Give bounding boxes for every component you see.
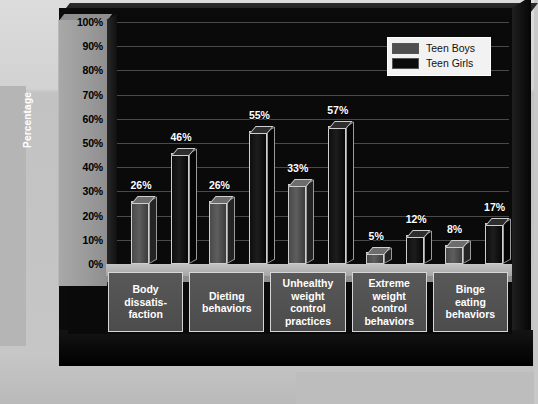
- bar-side: [149, 196, 157, 264]
- bar-face: [249, 131, 267, 264]
- bar-teen-girls: [485, 223, 503, 264]
- bar-group: 33%57%: [274, 22, 352, 264]
- bar-teen-boys: [366, 252, 384, 264]
- y-axis-tick-label: 90%: [59, 41, 103, 51]
- category-label-row: Body dissatis- factionDieting behaviorsU…: [106, 272, 512, 334]
- legend-item: Teen Boys: [392, 41, 486, 56]
- y-axis-tick-label: 70%: [59, 90, 103, 100]
- bar-face: [328, 126, 346, 264]
- chart-frame-base: [59, 330, 533, 366]
- category-label: Binge eating behaviors: [433, 272, 508, 332]
- category-label: Unhealthy weight control practices: [270, 272, 345, 332]
- category-label: Body dissatis- faction: [108, 272, 183, 332]
- bar-group: 26%46%: [117, 22, 195, 264]
- bar-face: [209, 201, 227, 264]
- legend-swatch: [392, 43, 419, 54]
- legend-label: Teen Girls: [426, 58, 473, 69]
- category-label: Dieting behaviors: [189, 272, 264, 332]
- category-label: Extreme weight control behaviors: [352, 272, 427, 332]
- bar-teen-boys: [209, 201, 227, 264]
- bar-face: [131, 201, 149, 264]
- y-axis-tick-label: 20%: [59, 211, 103, 221]
- y-axis-column-side: [106, 14, 117, 286]
- bar-teen-girls: [249, 131, 267, 264]
- bar-value-label: 33%: [277, 162, 319, 174]
- bar-value-label: 26%: [198, 179, 240, 191]
- legend-swatch: [392, 58, 419, 69]
- bar-teen-boys: [445, 245, 463, 264]
- bar-value-label: 26%: [120, 179, 162, 191]
- bar-value-label: 17%: [474, 201, 516, 213]
- bar-teen-girls: [171, 153, 189, 264]
- legend: Teen BoysTeen Girls: [387, 37, 491, 76]
- bar-value-label: 5%: [355, 230, 397, 242]
- y-axis-tick-label: 80%: [59, 65, 103, 75]
- y-axis-title: Percentage: [22, 77, 38, 163]
- y-axis-column: 100%90%80%70%60%50%40%30%20%10%0%: [58, 20, 107, 286]
- chart-frame-right-bevel: [512, 0, 531, 360]
- y-axis-tick-label: 30%: [59, 186, 103, 196]
- bar-face: [485, 223, 503, 264]
- y-axis-tick-label: 50%: [59, 138, 103, 148]
- legend-item: Teen Girls: [392, 56, 486, 71]
- y-axis-tick-label: 10%: [59, 235, 103, 245]
- bar-teen-boys: [288, 184, 306, 264]
- bar-side: [306, 180, 314, 264]
- y-axis-tick-label: 0%: [59, 259, 103, 269]
- bar-teen-girls: [406, 235, 424, 264]
- bar-face: [406, 235, 424, 264]
- bar-group: 26%55%: [195, 22, 273, 264]
- bar-side: [503, 218, 511, 264]
- y-axis-tick-label: 60%: [59, 114, 103, 124]
- y-axis-tick-label: 40%: [59, 162, 103, 172]
- legend-label: Teen Boys: [426, 43, 475, 54]
- bar-face: [288, 184, 306, 264]
- bar-value-label: 8%: [434, 223, 476, 235]
- y-axis-tick-label: 100%: [59, 17, 103, 27]
- bar-teen-girls: [328, 126, 346, 264]
- bar-face: [171, 153, 189, 264]
- bar-side: [227, 196, 235, 264]
- bar-teen-boys: [131, 201, 149, 264]
